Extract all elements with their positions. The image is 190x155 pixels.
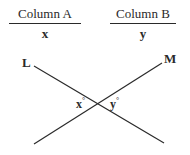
angle-y-label: y° xyxy=(110,96,119,112)
line-l-label: L xyxy=(22,55,31,71)
line-m-label: M xyxy=(164,51,176,67)
line-m xyxy=(34,63,162,144)
intersecting-lines-figure xyxy=(0,0,190,155)
angle-x-label: x° xyxy=(76,96,85,112)
